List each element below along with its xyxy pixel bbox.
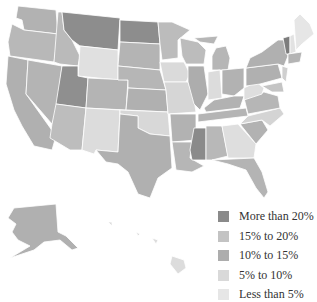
state-ohio[interactable] (222, 68, 244, 96)
state-colorado[interactable] (86, 78, 128, 110)
state-arizona[interactable] (50, 104, 86, 150)
legend-swatch (218, 211, 229, 222)
legend-label: Less than 5% (239, 287, 304, 302)
state-florida[interactable] (212, 158, 268, 198)
state-massachusetts-ri-ct[interactable] (288, 52, 302, 64)
legend-label: 15% to 20% (239, 229, 298, 244)
legend-label: 5% to 10% (239, 268, 292, 283)
state-new-mexico[interactable] (82, 108, 120, 154)
state-new-jersey[interactable] (282, 66, 288, 82)
legend-item-more-than-20: More than 20% (218, 207, 317, 227)
legend-item-5-to-10: 5% to 10% (218, 266, 317, 286)
state-south-dakota[interactable] (118, 42, 160, 70)
state-alaska[interactable] (8, 204, 78, 258)
legend-item-15-to-20: 15% to 20% (218, 227, 317, 247)
legend-label: More than 20% (239, 209, 314, 224)
state-maryland-delaware[interactable] (262, 82, 284, 92)
legend-swatch (218, 270, 229, 281)
state-new-york[interactable] (246, 40, 288, 68)
state-maine[interactable] (294, 14, 314, 50)
state-kansas[interactable] (126, 88, 168, 112)
legend-swatch (218, 231, 229, 242)
legend-item-less-than-5: Less than 5% (218, 285, 317, 302)
legend-label: 10% to 15% (239, 248, 298, 263)
legend-swatch (218, 289, 229, 300)
legend-item-10-to-15: 10% to 15% (218, 246, 317, 266)
state-north-dakota[interactable] (120, 20, 160, 44)
state-hawaii[interactable] (108, 222, 186, 274)
legend-swatch (218, 250, 229, 261)
map-legend: More than 20% 15% to 20% 10% to 15% 5% t… (218, 207, 317, 302)
state-wyoming[interactable] (78, 46, 118, 80)
state-iowa[interactable] (160, 62, 190, 82)
state-indiana[interactable] (208, 70, 222, 100)
